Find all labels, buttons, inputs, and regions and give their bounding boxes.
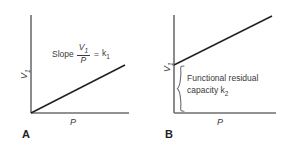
panel-a: V1 P Slope V1 P = k1 A: [0, 0, 143, 150]
panel-letter-b: B: [165, 128, 173, 140]
slope-denominator: P: [79, 56, 89, 65]
x-axis-label: P: [70, 117, 76, 127]
panel-b: V1 P Functional residual capacity k2 B: [143, 0, 286, 150]
frc-brace: [177, 66, 184, 111]
data-line-series-1: [31, 65, 125, 113]
x-axis-label: P: [217, 117, 223, 127]
slope-word: Slope: [52, 49, 74, 59]
equals-sign: =: [94, 49, 99, 59]
slope-annotation: Slope V1 P = k1: [52, 43, 110, 64]
slope-numerator: V1: [77, 43, 90, 55]
slope-fraction: V1 P: [77, 43, 90, 64]
slope-result: k1: [102, 48, 110, 60]
frc-caption: Functional residual capacity k2: [187, 72, 273, 98]
figure-root: V1 P Slope V1 P = k1 A V1: [0, 0, 286, 150]
y-axis-label: V1: [19, 69, 31, 79]
frc-caption-line-2: capacity k2: [187, 84, 273, 98]
data-line-series-1: [174, 16, 272, 65]
panel-letter-a: A: [22, 128, 30, 140]
y-axis-label: V1: [162, 62, 174, 72]
frc-caption-line-1: Functional residual: [187, 72, 273, 84]
